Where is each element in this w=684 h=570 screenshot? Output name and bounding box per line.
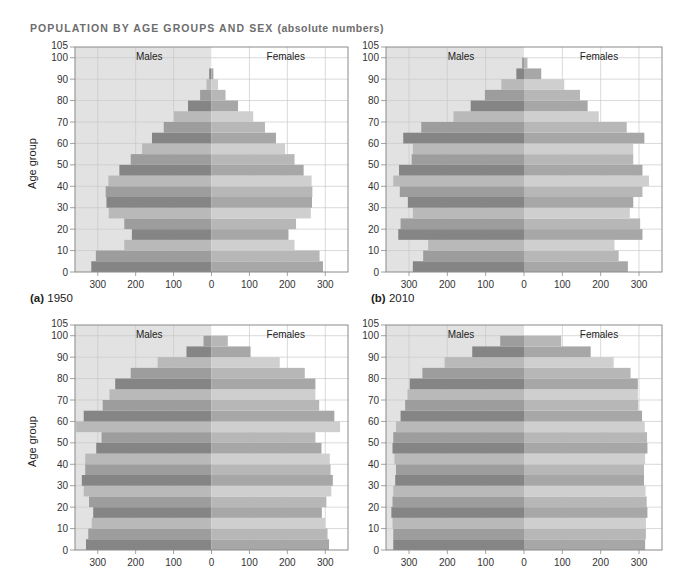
x-tick-label: 200 [439,557,456,568]
pyramid-chart-3: MalesFemales0102030405060708090100105300… [26,318,348,568]
x-tick-label: 300 [631,279,648,290]
male-bar-5-9 [423,251,524,262]
male-bar-60-64 [403,133,524,144]
males-label: Males [448,51,475,62]
x-tick-label: 0 [521,557,527,568]
females-label: Females [580,329,618,340]
y-tick-label: 0 [373,267,379,278]
female-bar-50-54 [212,432,316,443]
y-axis: 0102030405060708090100105 [362,318,386,556]
y-tick-label: 0 [62,267,68,278]
male-bar-75-79 [410,379,524,390]
x-tick-label: 200 [592,557,609,568]
y-tick-label: 80 [57,373,69,384]
x-tick-label: 100 [554,279,571,290]
male-bar-45-49 [399,165,524,176]
female-bar-95-99 [524,336,561,347]
male-bar-30-34 [395,475,524,486]
male-bar-45-49 [119,165,211,176]
male-bar-85-89 [501,79,524,90]
female-bar-30-34 [524,475,644,486]
female-bar-50-54 [212,154,295,165]
y-tick-label: 105 [362,318,379,329]
y-tick-label: 50 [57,159,69,170]
y-tick-label: 0 [62,545,68,556]
male-bar-80-84 [200,90,211,101]
y-tick-label: 10 [57,245,69,256]
female-bar-15-19 [524,229,642,240]
female-bar-15-19 [212,507,322,518]
male-bar-0-4 [91,261,211,272]
female-bar-75-79 [212,379,316,390]
female-bar-10-14 [212,240,295,251]
y-tick-label: 30 [368,480,380,491]
female-bar-10-14 [524,240,614,251]
female-bar-55-59 [524,421,645,432]
y-tick-label: 20 [57,502,69,513]
x-tick-label: 300 [317,557,334,568]
female-bar-95-99 [524,58,527,69]
female-bar-15-19 [212,229,289,240]
male-bar-90-94 [516,68,524,79]
female-bar-75-79 [524,379,638,390]
males-label: Males [448,329,475,340]
male-bar-85-89 [207,79,212,90]
female-bar-70-74 [212,111,254,122]
x-tick-label: 300 [89,557,106,568]
x-tick-label: 100 [241,557,258,568]
female-bar-10-14 [524,518,646,529]
x-tick-label: 0 [521,279,527,290]
population-pyramids: MalesFemales0102030405060708090100105300… [0,0,684,570]
male-bar-35-39 [106,186,212,197]
female-bar-55-59 [524,143,633,154]
male-bar-65-69 [103,400,212,411]
male-bar-25-29 [84,486,212,497]
male-bar-20-24 [89,496,211,507]
y-tick-label: 10 [368,245,380,256]
male-bar-0-4 [413,261,524,272]
female-bar-30-34 [524,197,633,208]
male-bar-95-99 [522,58,524,69]
male-bar-75-79 [115,379,211,390]
female-bar-65-69 [212,400,320,411]
male-bar-20-24 [393,496,524,507]
male-bar-15-19 [132,229,212,240]
pyramid-chart-4: MalesFemales0102030405060708090100105300… [362,318,662,568]
y-tick-label: 105 [362,40,379,51]
male-bar-60-64 [84,411,212,422]
male-bar-85-89 [445,357,524,368]
x-tick-label: 300 [89,279,106,290]
female-bar-40-44 [212,454,330,465]
y-tick-label: 40 [57,181,69,192]
male-bar-70-74 [174,111,212,122]
female-bar-65-69 [524,400,638,411]
x-tick-label: 200 [279,557,296,568]
y-tick-label: 105 [51,318,68,329]
y-tick-label: 30 [57,480,69,491]
bars [391,336,647,550]
females-label: Females [267,329,305,340]
female-bar-85-89 [524,79,564,90]
male-bar-25-29 [413,208,524,219]
male-bar-30-34 [82,475,212,486]
female-bar-85-89 [212,357,280,368]
y-tick-label: 80 [368,95,380,106]
y-tick-label: 20 [368,224,380,235]
male-bar-55-59 [413,143,524,154]
male-bar-15-19 [398,229,524,240]
male-bar-25-29 [109,208,212,219]
x-tick-label: 200 [127,557,144,568]
x-tick-label: 100 [165,557,182,568]
male-bar-50-54 [393,432,524,443]
female-bar-15-19 [524,507,647,518]
female-bar-5-9 [212,529,328,540]
female-bar-45-49 [524,165,642,176]
males-label: Males [136,329,163,340]
y-tick-label: 90 [57,352,69,363]
male-bar-10-14 [393,518,524,529]
y-tick-label: 40 [368,459,380,470]
female-bar-25-29 [524,208,630,219]
y-tick-label: 100 [51,330,68,341]
x-axis: 3002001000100200300 [89,550,334,568]
male-bar-30-34 [106,197,211,208]
